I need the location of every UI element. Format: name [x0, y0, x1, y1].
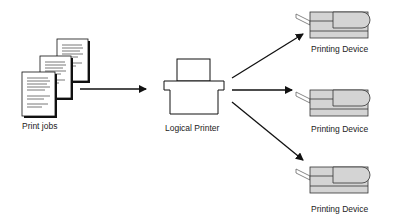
printing-device-label-3: Printing Device: [311, 204, 368, 214]
printing-device-icon: [296, 90, 370, 116]
diagram-canvas: Print jobs Logical Printer Printing Devi…: [0, 0, 398, 220]
document-stack-icon: [22, 39, 90, 118]
logical-printer-label: Logical Printer: [165, 123, 219, 133]
diagram-graphics: [0, 0, 398, 220]
printing-device-label-2: Printing Device: [311, 124, 368, 134]
printing-device-icon: [296, 12, 370, 38]
arrow-to-device-1: [232, 34, 303, 78]
logical-printer-icon: [164, 59, 224, 114]
printing-device-icon: [296, 167, 370, 193]
print-jobs-label: Print jobs: [22, 121, 57, 131]
arrow-to-device-3: [232, 102, 303, 160]
document-icon: [22, 72, 57, 118]
printing-device-label-1: Printing Device: [311, 44, 368, 54]
